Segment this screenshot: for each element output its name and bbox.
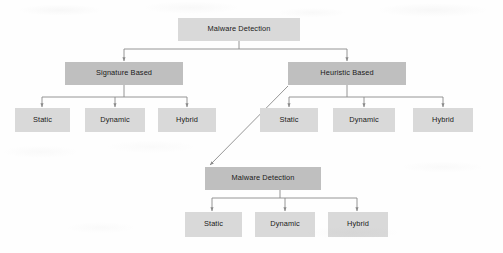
node-heuristic-based[interactable]: Heuristic Based: [288, 62, 406, 85]
node-signature-based-label: Signature Based: [96, 69, 152, 77]
diagram-canvas: Malware Detection Signature Based Heuris…: [0, 0, 503, 253]
node-heuristic-dynamic[interactable]: Dynamic: [333, 108, 395, 132]
node-root-secondary[interactable]: Malware Detection: [205, 167, 321, 190]
node-heuristic-dynamic-label: Dynamic: [349, 116, 378, 124]
node-bottom-dynamic[interactable]: Dynamic: [255, 212, 315, 237]
node-heuristic-based-label: Heuristic Based: [320, 69, 373, 77]
node-bottom-static[interactable]: Static: [185, 212, 242, 237]
node-signature-static-label: Static: [33, 116, 52, 124]
node-heuristic-static[interactable]: Static: [260, 108, 318, 132]
node-signature-hybrid-label: Hybrid: [176, 116, 198, 124]
node-heuristic-static-label: Static: [279, 116, 298, 124]
node-signature-dynamic-label: Dynamic: [100, 116, 129, 124]
node-signature-static[interactable]: Static: [15, 108, 70, 132]
node-signature-dynamic[interactable]: Dynamic: [85, 108, 145, 132]
node-bottom-hybrid-label: Hybrid: [347, 220, 369, 228]
node-root-label: Malware Detection: [208, 25, 271, 33]
node-bottom-hybrid[interactable]: Hybrid: [328, 212, 388, 237]
node-heuristic-hybrid-label: Hybrid: [432, 116, 454, 124]
node-bottom-dynamic-label: Dynamic: [270, 220, 299, 228]
node-heuristic-hybrid[interactable]: Hybrid: [413, 108, 473, 132]
node-signature-hybrid[interactable]: Hybrid: [158, 108, 216, 132]
node-signature-based[interactable]: Signature Based: [65, 62, 183, 85]
node-root[interactable]: Malware Detection: [178, 18, 300, 41]
node-bottom-static-label: Static: [204, 220, 223, 228]
node-root-secondary-label: Malware Detection: [232, 174, 295, 182]
